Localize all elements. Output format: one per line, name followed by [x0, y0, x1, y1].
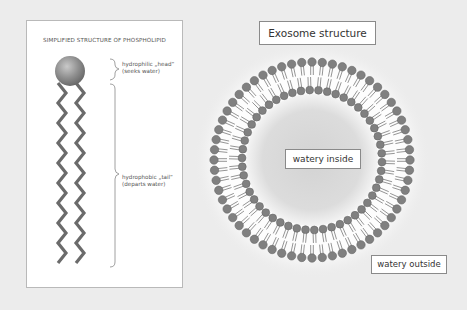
inner-lipid-head	[280, 92, 288, 100]
tail-right	[76, 83, 84, 263]
outer-lipid-head	[242, 229, 250, 237]
outer-lipid-head	[338, 249, 346, 257]
inner-lipid-head	[366, 117, 374, 125]
outer-lipid-head	[365, 77, 373, 85]
inner-lipid-head	[265, 101, 273, 109]
inner-lipid-head	[336, 220, 344, 228]
outer-lipid-head	[348, 66, 356, 74]
head-label: hydrophilic „head“	[122, 61, 174, 68]
inner-lipid-head	[354, 104, 362, 112]
outer-lipid-head	[328, 252, 336, 260]
inner-lipid-head	[276, 219, 284, 227]
inner-lipid-head	[370, 124, 378, 132]
exosome-title: Exosome structure	[259, 21, 376, 45]
outer-lipid-head	[328, 60, 336, 68]
outer-lipid-head	[235, 90, 243, 98]
inner-lipid-head	[250, 196, 258, 204]
tail-brace	[110, 84, 119, 267]
inner-lipid-head	[376, 141, 384, 149]
inner-lipid-head	[240, 171, 248, 179]
inner-lipid-head	[284, 222, 292, 230]
outer-lipid-head	[373, 229, 381, 237]
inner-lipid-head	[332, 90, 340, 98]
inner-lipid-head	[315, 86, 323, 94]
phospholipid-head	[55, 56, 85, 86]
outer-lipid-head	[387, 98, 395, 106]
outer-lipid-head	[250, 77, 258, 85]
outer-lipid-head	[268, 245, 276, 253]
outer-lipid-head	[298, 58, 306, 66]
inner-lipid-head	[253, 113, 261, 121]
outer-lipid-head	[401, 186, 409, 194]
outer-lipid-head	[278, 63, 286, 71]
inner-lipid-head	[297, 87, 305, 95]
inner-lipid-head	[242, 180, 250, 188]
outer-lipid-head	[210, 166, 218, 174]
inner-lipid-head	[375, 176, 383, 184]
outer-lipid-head	[405, 146, 413, 154]
inner-lipid-head	[310, 226, 318, 234]
outer-lipid-head	[268, 66, 276, 74]
inner-lipid-head	[340, 94, 348, 102]
inner-lipid-head	[269, 214, 277, 222]
outer-lipid-head	[212, 135, 220, 143]
outer-lipid-head	[242, 83, 250, 91]
outer-lipid-head	[387, 213, 395, 221]
outer-lipid-head	[223, 205, 231, 213]
outer-lipid-head	[318, 58, 326, 66]
outer-lipid-head	[405, 166, 413, 174]
outer-lipid-head	[318, 253, 326, 261]
outer-lipid-head	[401, 126, 409, 134]
head-annotation: hydrophilic „head“ (seeks water)	[122, 61, 174, 75]
outer-lipid-head	[348, 245, 356, 253]
outer-lipid-head	[218, 196, 226, 204]
outer-lipid-head	[308, 254, 316, 262]
watery-inside-label: watery inside	[285, 149, 361, 169]
outer-lipid-head	[298, 253, 306, 261]
inner-lipid-head	[238, 154, 246, 162]
inner-lipid-head	[344, 216, 352, 224]
inner-lipid-head	[378, 149, 386, 157]
inner-lipid-head	[256, 202, 264, 210]
outer-lipid-head	[404, 176, 412, 184]
outer-lipid-head	[381, 221, 389, 229]
inner-lipid-head	[306, 86, 314, 94]
head-sublabel: (seeks water)	[122, 68, 174, 75]
tail-label: hydrophobic „tail“	[122, 174, 173, 181]
inner-lipid-head	[372, 184, 380, 192]
inner-lipid-head	[323, 88, 331, 96]
outer-lipid-head	[373, 83, 381, 91]
outer-lipid-head	[381, 90, 389, 98]
inner-lipid-head	[328, 223, 336, 231]
inner-lipid-head	[361, 110, 369, 118]
inner-lipid-head	[259, 107, 267, 115]
outer-lipid-head	[365, 235, 373, 243]
outer-lipid-head	[218, 116, 226, 124]
outer-lipid-head	[259, 71, 267, 79]
inner-lipid-head	[319, 225, 327, 233]
inner-lipid-head	[377, 167, 385, 175]
phospholipid-panel: SIMPLIFIED STRUCTURE OF PHOSPHOLIPID hyd…	[26, 20, 183, 288]
inner-lipid-head	[368, 192, 376, 200]
tail-annotation: hydrophobic „tail“ (departs water)	[122, 174, 173, 188]
inner-lipid-head	[262, 209, 270, 217]
outer-lipid-head	[397, 196, 405, 204]
inner-lipid-head	[293, 224, 301, 232]
outer-lipid-head	[210, 146, 218, 154]
inner-lipid-head	[358, 206, 366, 214]
inner-lipid-head	[244, 128, 252, 136]
outer-lipid-head	[393, 205, 401, 213]
inner-lipid-head	[238, 163, 246, 171]
outer-lipid-head	[229, 213, 237, 221]
outer-lipid-head	[357, 71, 365, 79]
outer-lipid-head	[210, 156, 218, 164]
inner-lipid-head	[302, 226, 310, 234]
outer-lipid-head	[259, 241, 267, 249]
inner-lipid-head	[241, 137, 249, 145]
outer-lipid-head	[250, 235, 258, 243]
outer-lipid-head	[287, 252, 295, 260]
outer-lipid-head	[212, 176, 220, 184]
inner-lipid-head	[363, 199, 371, 207]
outer-lipid-head	[397, 116, 405, 124]
tail-left	[58, 83, 66, 263]
